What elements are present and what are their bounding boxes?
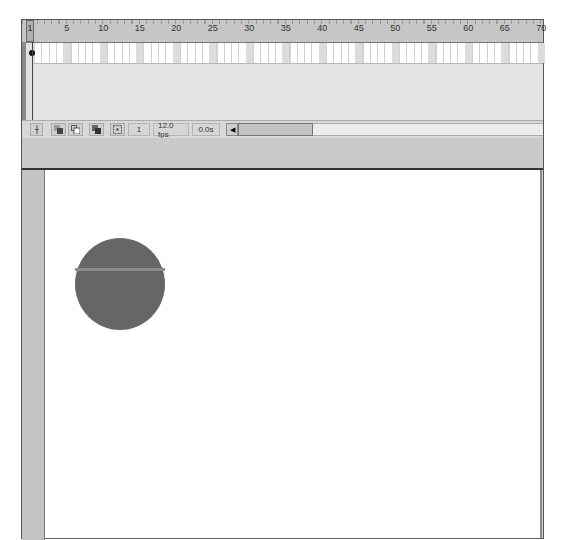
circle-shape[interactable] (75, 238, 165, 330)
timeline-status-bar: 1 12.0 fps 0.0s ◀ (22, 120, 543, 139)
frame-cell-marker (355, 43, 362, 63)
timeline-panel: 1 510152025303540455055606570 (22, 20, 543, 138)
frame-rate-field[interactable]: 12.0 fps (153, 123, 189, 136)
ruler-label: 35 (281, 23, 291, 33)
frame-ruler[interactable]: 1 510152025303540455055606570 (22, 20, 543, 43)
center-frame-icon (34, 125, 40, 134)
frame-cell-marker (246, 43, 253, 63)
circle-highlight-band (75, 268, 165, 271)
flash-editor-window: 1 510152025303540455055606570 (21, 19, 544, 539)
center-frame-button[interactable] (30, 123, 43, 136)
current-frame-field: 1 (128, 123, 150, 136)
layer-frames-row[interactable] (34, 43, 543, 64)
frame-cell-marker (100, 43, 107, 63)
edit-multiple-frames-button[interactable] (89, 123, 104, 136)
modify-onion-markers-icon (113, 125, 122, 134)
frame-cell-marker (63, 43, 70, 63)
playhead-line (32, 42, 33, 122)
frame-cell-marker (319, 43, 326, 63)
arrow-left-icon: ◀ (230, 126, 235, 134)
ruler-label: 60 (463, 23, 473, 33)
frame-cell-marker (428, 43, 435, 63)
frame-cell-marker (209, 43, 216, 63)
edit-multiple-frames-icon (92, 125, 101, 134)
onion-skin-button[interactable] (51, 123, 66, 136)
ruler-label: 10 (98, 23, 108, 33)
layer-gutter (22, 42, 26, 124)
frame-cell-marker (136, 43, 143, 63)
horizontal-scrollbar-track[interactable] (313, 123, 543, 136)
ruler-label: 15 (135, 23, 145, 33)
ruler-label: 55 (427, 23, 437, 33)
ruler-label: 20 (171, 23, 181, 33)
elapsed-time-field: 0.0s (192, 123, 220, 136)
stage-pasteboard-left (22, 170, 45, 540)
onion-skin-outlines-button[interactable] (68, 123, 83, 136)
stage-canvas[interactable] (45, 170, 542, 539)
onion-skin-outlines-icon (71, 125, 80, 134)
horizontal-scrollbar-thumb[interactable] (238, 123, 313, 136)
ruler-label: 40 (317, 23, 327, 33)
frame-cell-marker (392, 43, 399, 63)
onion-skin-icon (54, 125, 63, 134)
ruler-label: 5 (64, 23, 69, 33)
timeline-empty-area (34, 64, 543, 120)
ruler-label: 25 (208, 23, 218, 33)
frame-cell-marker (501, 43, 508, 63)
ruler-label: 45 (354, 23, 364, 33)
frame-cell-marker (173, 43, 180, 63)
scroll-left-button[interactable]: ◀ (226, 123, 238, 136)
current-frame-label: 1 (27, 23, 32, 33)
frame-cell-marker (465, 43, 472, 63)
modify-onion-markers-button[interactable] (110, 123, 125, 136)
edit-bar (22, 138, 543, 170)
frame-cell-marker (282, 43, 289, 63)
ruler-label: 70 (536, 23, 546, 33)
ruler-label: 65 (500, 23, 510, 33)
frame-cell-marker (538, 43, 545, 63)
ruler-label: 30 (244, 23, 254, 33)
ruler-label: 50 (390, 23, 400, 33)
